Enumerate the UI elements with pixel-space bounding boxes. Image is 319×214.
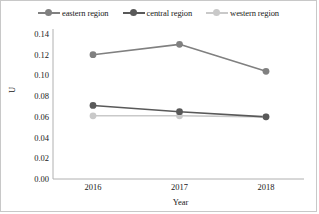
plot-area: U 0.140.120.100.080.060.040.020.00 20162…: [1, 1, 318, 213]
data-point-western-region-2016: [90, 112, 97, 119]
data-point-central-region-2017: [176, 108, 183, 115]
data-point-eastern-region-2017: [176, 41, 183, 48]
series-line-eastern-region: [93, 44, 266, 71]
x-axis-title: Year: [53, 197, 308, 207]
data-point-central-region-2016: [90, 102, 97, 109]
x-axis-tick-label: 2016: [85, 183, 102, 192]
data-point-central-region-2018: [263, 113, 270, 120]
x-axis-tick-labels: 201620172018: [53, 183, 308, 195]
data-point-eastern-region-2016: [90, 51, 97, 58]
chart-container: eastern region central region western re…: [0, 0, 317, 212]
x-axis-tick-label: 2018: [258, 183, 275, 192]
x-axis-tick-label: 2017: [171, 183, 188, 192]
data-point-eastern-region-2018: [263, 68, 270, 75]
